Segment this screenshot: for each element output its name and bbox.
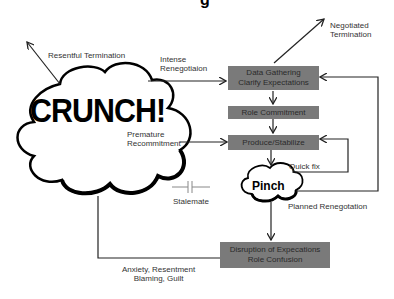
crunch-label: CRUNCH! bbox=[30, 92, 165, 130]
label-line: Premature bbox=[127, 130, 181, 139]
box-line: Disruption of Expecations bbox=[220, 245, 330, 255]
label-line: Blaming, Guilt bbox=[122, 274, 195, 283]
label-line: Negotiated bbox=[330, 21, 371, 30]
box-line: Produce/Stabilize bbox=[228, 138, 319, 148]
box-data-gathering: Data Gathering Clarify Expectations bbox=[228, 66, 319, 90]
label-planned-renegotiation: Planned Renegotation bbox=[288, 202, 367, 211]
pinch-label: Pinch bbox=[252, 179, 285, 193]
stalemate-symbol bbox=[172, 181, 210, 193]
label-line: Intense bbox=[160, 55, 207, 64]
box-disruption: Disruption of Expecations Role Confusion bbox=[220, 242, 330, 268]
box-line: Data Gathering bbox=[228, 68, 319, 78]
title-fragment: g bbox=[200, 0, 210, 9]
label-line: Renegotiaion bbox=[160, 64, 207, 73]
label-line: Anxiety, Resentment bbox=[122, 265, 195, 274]
label-quick-fix: Quick fix bbox=[289, 162, 320, 171]
label-stalemate: Stalemate bbox=[173, 197, 209, 206]
box-role-commitment: Role Commitment bbox=[228, 106, 319, 119]
box-line: Clarify Expectations bbox=[228, 78, 319, 88]
label-anxiety: Anxiety, Resentment Blaming, Guilt bbox=[122, 265, 195, 283]
label-resentful-termination: Resentful Termination bbox=[48, 51, 125, 60]
box-line: Role Commitment bbox=[228, 108, 319, 118]
label-negotiated-termination: Negotiated Termination bbox=[330, 21, 371, 39]
label-line: Termination bbox=[330, 30, 371, 39]
diagram-canvas bbox=[0, 0, 394, 299]
label-premature-recommitment: Premature Recommitment bbox=[127, 130, 181, 148]
box-produce-stabilize: Produce/Stabilize bbox=[228, 135, 319, 150]
label-line: Recommitment bbox=[127, 139, 181, 148]
box-line: Role Confusion bbox=[220, 255, 330, 265]
label-intense-renegotiation: Intense Renegotiaion bbox=[160, 55, 207, 73]
